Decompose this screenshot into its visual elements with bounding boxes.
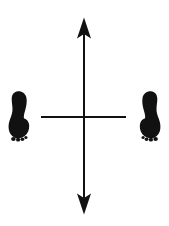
figure-container: Two black footprint silhouettes face eac…	[0, 0, 169, 226]
right-footprint-toe-2	[149, 138, 153, 142]
right-footprint-toe-4	[142, 136, 145, 139]
left-footprint-toe-1	[11, 137, 16, 141]
right-footprint-toe-3	[145, 138, 149, 141]
diagram-canvas	[0, 0, 169, 226]
left-footprint-toe-2	[16, 138, 20, 142]
left-footprint-toe-3	[21, 138, 25, 141]
right-footprint-toe-1	[153, 137, 158, 141]
left-footprint-toe-4	[24, 136, 27, 139]
